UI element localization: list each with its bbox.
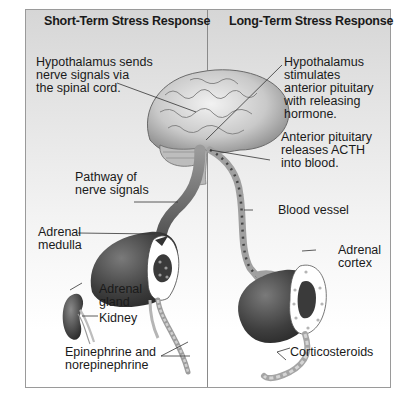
- label-epinephrine: Epinephrine and norepinephrine: [65, 346, 156, 372]
- label-anterior-pituitary: Anterior pituitary releases ACTH into bl…: [281, 131, 372, 170]
- adrenal-cortex-icon: [238, 265, 326, 343]
- label-adrenal-cortex: Adrenal cortex: [338, 244, 381, 270]
- label-corticosteroids: Corticosteroids: [290, 346, 373, 359]
- label-adrenal-medulla: Adrenal medulla: [38, 226, 82, 252]
- brain-icon: [147, 70, 288, 185]
- label-pathway-of-nerve-signals: Pathway of nerve signals: [75, 171, 149, 197]
- label-blood-vessel: Blood vessel: [278, 204, 349, 217]
- label-adrenal-gland: Adrenal gland: [99, 283, 142, 309]
- long-term-title: Long-Term Stress Response: [229, 14, 393, 28]
- label-hypothalamus-sends: Hypothalamus sends nerve signals via the…: [36, 56, 153, 95]
- blood-vessel-long-term-icon: [210, 150, 285, 280]
- kidney-icon: [63, 294, 94, 344]
- short-term-title: Short-Term Stress Response: [44, 14, 210, 28]
- label-hypothalamus-stimulates: Hypothalamus stimulates anterior pituita…: [284, 56, 374, 121]
- label-kidney: Kidney: [99, 312, 137, 325]
